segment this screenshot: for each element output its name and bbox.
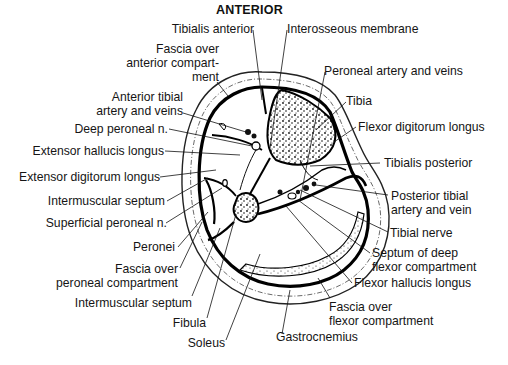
leader-flexor-hallucis [286, 206, 352, 283]
leader-peronei [178, 212, 208, 247]
label-superficial-peroneal: Superficial peroneal n. [46, 216, 167, 230]
label-anterior-tibial-1: Anterior tibial [112, 90, 183, 104]
label-peroneal-artery: Peroneal artery and veins [324, 64, 463, 78]
leader-intermuscular-1 [167, 178, 208, 201]
label-fascia-flexor-2: flexor compartment [329, 314, 433, 328]
label-intermuscular-septum-2: Intermuscular septum [75, 296, 192, 310]
leader-soleus [226, 254, 260, 340]
label-deep-peroneal: Deep peroneal n. [74, 122, 168, 136]
label-fascia-anterior-3: ment [192, 70, 219, 84]
label-fascia-peroneal-1: Fascia over [115, 262, 178, 276]
label-fascia-anterior-2: anterior compart- [126, 56, 219, 70]
label-extensor-digitorum: Extensor digitorum longus [19, 170, 160, 184]
label-gastrocnemius: Gastrocnemius [276, 330, 358, 344]
leader-flexor-digitorum [334, 127, 356, 142]
label-soleus: Soleus [188, 336, 225, 350]
label-fascia-peroneal-2: peroneal compartment [56, 276, 178, 290]
leader-septum-deep [298, 200, 370, 253]
label-tibialis-anterior: Tibialis anterior [172, 22, 254, 36]
leader-tibia [316, 102, 346, 130]
leader-fascia-peroneal [180, 222, 202, 268]
label-tibia: Tibia [346, 94, 372, 108]
leader-superficial-peroneal [166, 188, 222, 223]
leader-tibialis-anterior [253, 30, 262, 100]
label-tibial-nerve: Tibial nerve [390, 226, 453, 240]
label-fibula: Fibula [173, 316, 206, 330]
leader-interosseous [270, 30, 287, 148]
leader-anterior-tibial [183, 113, 246, 132]
leader-peroneal-artery [300, 72, 325, 200]
label-tibialis-posterior: Tibialis posterior [384, 156, 472, 170]
label-interosseous-membrane: Interosseous membrane [287, 22, 418, 36]
leader-fibula [207, 214, 236, 318]
label-flexor-digitorum: Flexor digitorum longus [358, 120, 485, 134]
label-fascia-anterior-1: Fascia over [156, 42, 219, 56]
leader-extensor-digitorum [160, 170, 216, 177]
label-extensor-hallucis: Extensor hallucis longus [33, 144, 164, 158]
label-flexor-hallucis: Flexor hallucis longus [354, 276, 471, 290]
label-fascia-flexor-1: Fascia over [329, 300, 392, 314]
label-posterior-tibial-1: Posterior tibial [391, 189, 468, 203]
label-septum-deep-2: flexor compartment [372, 260, 476, 274]
leader-fascia-flexor [318, 278, 330, 298]
label-anterior-tibial-2: artery and veins [96, 104, 183, 118]
leader-deep-peroneal [169, 129, 252, 146]
leader-posterior-tibial [316, 185, 388, 195]
label-intermuscular-septum-1: Intermuscular septum [48, 194, 165, 208]
leader-gastrocnemius [282, 290, 290, 334]
label-posterior-tibial-2: artery and vein [391, 203, 472, 217]
leader-extensor-hallucis [165, 151, 240, 155]
leader-fascia-anterior [217, 82, 228, 96]
leader-tibialis-posterior [310, 163, 380, 166]
label-peronei: Peronei [133, 240, 175, 254]
label-septum-deep-1: Septum of deep [372, 246, 458, 260]
